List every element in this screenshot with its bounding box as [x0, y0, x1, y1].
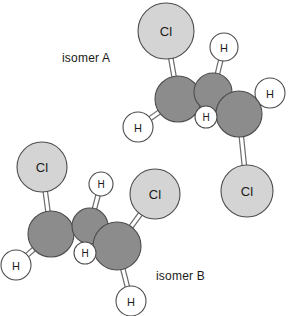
atom-label-b-h-center: H: [81, 248, 88, 259]
atom-a-cl-top: Cl: [138, 3, 194, 59]
atom-label-a-h-left: H: [134, 122, 142, 134]
carbon-sphere: [93, 222, 141, 270]
caption-isomer-a: isomer A: [62, 51, 110, 65]
molecule-diagram-canvas: ClClClClHHHHHHHH: [0, 0, 291, 316]
atom-b-h-left: H: [1, 250, 31, 280]
atom-label-a-h-top: H: [220, 42, 228, 54]
atom-b-cl-left: Cl: [17, 142, 67, 192]
atom-a-c-right: [216, 91, 262, 137]
atom-b-c-right: [93, 222, 141, 270]
atom-label-b-h-bottom: H: [127, 296, 135, 308]
atom-label-b-h-top: H: [97, 179, 104, 190]
atom-label-b-h-left: H: [12, 260, 20, 272]
atom-a-h-top: H: [210, 33, 238, 61]
atom-label-a-cl-top: Cl: [160, 24, 172, 39]
atom-b-h-bottom: H: [116, 286, 146, 316]
carbon-sphere: [155, 76, 201, 122]
atom-b-h-center: H: [74, 242, 96, 264]
atom-a-cl-bottom: Cl: [221, 165, 273, 217]
atom-label-a-cl-bottom: Cl: [241, 184, 253, 199]
atom-a-c-left: [155, 76, 201, 122]
atom-label-b-cl-left: Cl: [36, 160, 48, 175]
atom-a-h-left: H: [123, 112, 153, 142]
carbon-sphere: [216, 91, 262, 137]
atom-label-b-cl-right: Cl: [149, 187, 161, 202]
carbon-sphere: [28, 211, 74, 257]
atoms-layer: ClClClClHHHHHHHH: [1, 3, 285, 316]
atom-label-a-h-right: H: [266, 88, 274, 100]
atom-b-h-top: H: [89, 172, 113, 196]
caption-isomer-b: isomer B: [156, 269, 205, 283]
atom-a-h-center: H: [195, 106, 217, 128]
atom-label-a-h-center: H: [202, 112, 209, 123]
atom-b-cl-right: Cl: [130, 169, 180, 219]
molecular-structure-figure: ClClClClHHHHHHHH isomer A isomer B: [0, 0, 291, 316]
atom-b-c-left: [28, 211, 74, 257]
